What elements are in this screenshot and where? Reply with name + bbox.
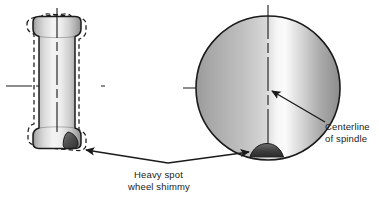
centerline-label-line1: Centerline [325,121,370,132]
heavy-spot-label-line1: Heavy spot [134,169,183,180]
tire-side-view [6,8,108,160]
tire-front-view [183,5,353,176]
heavy-spot-callout-arrow [86,150,249,163]
diagram-canvas: Heavy spot wheel shimmy Centerline of sp… [0,0,379,201]
wheel-shimmy-diagram: Heavy spot wheel shimmy Centerline of sp… [0,0,379,201]
centerline-label-line2: of spindle [325,133,367,144]
heavy-spot-label-line2: wheel shimmy [127,181,190,192]
